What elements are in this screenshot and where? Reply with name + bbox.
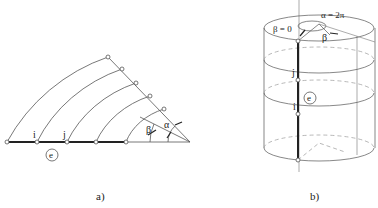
arc-3 bbox=[67, 83, 136, 142]
label-i: i bbox=[33, 129, 36, 140]
label-alpha: α bbox=[164, 119, 170, 130]
caption-a: a) bbox=[96, 190, 105, 203]
node bbox=[162, 107, 166, 111]
beta-arrow-icon bbox=[330, 33, 338, 34]
beta-zero-arrow-icon bbox=[300, 30, 305, 36]
wedge-bottom bbox=[298, 143, 345, 160]
label-j: j bbox=[291, 67, 295, 78]
caption-b: b) bbox=[310, 190, 320, 203]
node bbox=[94, 140, 98, 144]
arc-2 bbox=[37, 69, 122, 142]
label-beta-zero: β = 0 bbox=[273, 24, 292, 34]
node-j bbox=[65, 140, 69, 144]
arc-4 bbox=[96, 96, 150, 142]
node bbox=[296, 158, 300, 162]
bottom-ellipse bbox=[264, 148, 374, 161]
label-element: e bbox=[49, 150, 53, 160]
label-beta: β bbox=[322, 32, 327, 43]
label-j: j bbox=[62, 129, 66, 140]
label-beta: β bbox=[146, 124, 151, 135]
node bbox=[124, 140, 128, 144]
node bbox=[134, 81, 138, 85]
label-alpha-2pi: α = 2π bbox=[321, 10, 345, 20]
node bbox=[5, 140, 9, 144]
node-i bbox=[296, 112, 300, 116]
node-j bbox=[296, 78, 300, 82]
node-i bbox=[35, 140, 39, 144]
label-element: e bbox=[307, 93, 311, 103]
node bbox=[106, 55, 110, 59]
node bbox=[296, 39, 300, 43]
node bbox=[120, 67, 124, 71]
alpha-arrow-icon bbox=[167, 132, 171, 138]
label-i: i bbox=[293, 101, 296, 112]
diagram: i j e β α a) j i e bbox=[0, 0, 378, 208]
arc-5 bbox=[126, 109, 164, 142]
panel-a-nodes bbox=[5, 55, 166, 161]
node bbox=[148, 94, 152, 98]
arc-1 bbox=[7, 57, 108, 142]
